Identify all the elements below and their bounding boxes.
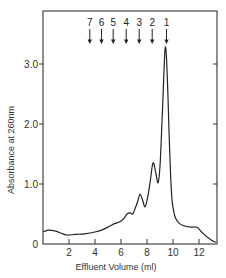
fraction-arrow-4: 4 (123, 17, 129, 44)
fraction-arrow-7: 7 (87, 17, 93, 44)
plot-border (43, 11, 217, 244)
arrowhead-icon (88, 40, 92, 45)
x-axis-ticks: 24681012 (66, 239, 205, 258)
arrowhead-icon (124, 40, 128, 45)
x-tick-label: 2 (66, 247, 72, 258)
chromatogram-chart: 24681012 01.02.03.0 7654321 Effluent Vol… (0, 0, 226, 278)
arrowhead-icon (111, 40, 115, 45)
fraction-label: 7 (87, 17, 93, 28)
fraction-arrow-6: 6 (99, 17, 105, 44)
arrowhead-icon (164, 40, 168, 45)
x-tick-label: 8 (144, 247, 150, 258)
x-tick-label: 10 (167, 247, 179, 258)
fraction-label: 2 (149, 17, 155, 28)
fraction-arrow-5: 5 (110, 17, 116, 44)
fraction-arrow-3: 3 (136, 17, 142, 44)
fraction-arrow-1: 1 (164, 17, 170, 44)
fraction-label: 5 (110, 17, 116, 28)
y-tick-label: 2.0 (24, 119, 38, 130)
arrowhead-icon (150, 40, 154, 45)
y-tick-label: 1.0 (24, 179, 38, 190)
arrowhead-icon (137, 40, 141, 45)
x-axis-title: Effluent Volume (ml) (76, 262, 157, 272)
fraction-label: 6 (99, 17, 105, 28)
x-tick-label: 12 (193, 247, 205, 258)
plot-frame (43, 11, 217, 244)
y-tick-label: 0 (32, 239, 38, 250)
fraction-label: 4 (123, 17, 129, 28)
x-tick-label: 4 (92, 247, 98, 258)
x-tick-label: 6 (118, 247, 124, 258)
fraction-arrow-2: 2 (149, 17, 155, 44)
arrowhead-icon (99, 40, 103, 45)
fraction-label: 3 (136, 17, 142, 28)
series-line (43, 47, 216, 242)
fraction-arrows: 7654321 (87, 17, 170, 44)
y-tick-label: 3.0 (24, 59, 38, 70)
absorbance-curve (43, 47, 216, 242)
fraction-label: 1 (164, 17, 170, 28)
y-axis-title: Absorbance at 260nm (6, 106, 16, 194)
